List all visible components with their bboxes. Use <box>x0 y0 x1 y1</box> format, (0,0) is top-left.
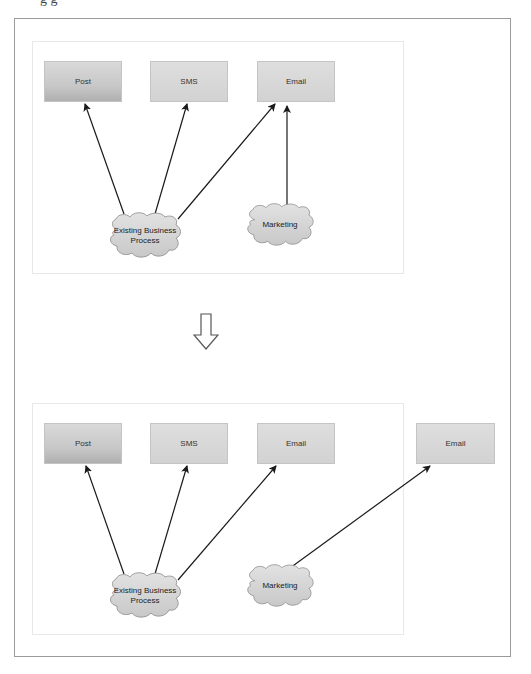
after-source-marketing-label: Marketing <box>262 581 297 591</box>
before-source-ebp-line1: Existing Business <box>114 226 177 236</box>
after-source-marketing: Marketing <box>244 564 316 607</box>
after-channel-email: Email <box>257 423 335 464</box>
before-channel-sms-label: SMS <box>180 77 197 86</box>
before-channel-post: Post <box>44 61 122 102</box>
before-channel-email: Email <box>257 61 335 102</box>
after-source-existing-business-process: Existing Business Process <box>108 574 182 618</box>
after-channel-sms: SMS <box>150 423 228 464</box>
before-arrows <box>85 104 287 219</box>
before-channel-sms: SMS <box>150 61 228 102</box>
before-source-marketing: Marketing <box>244 203 316 246</box>
before-source-existing-business-process: Existing Business Process <box>108 214 182 258</box>
hollow-down-arrow-icon <box>193 313 219 351</box>
before-channel-email-label: Email <box>286 77 306 86</box>
before-source-marketing-label: Marketing <box>262 220 297 230</box>
after-source-ebp-line1: Existing Business <box>114 586 177 596</box>
after-arrows <box>86 466 430 580</box>
after-external-email-label: Email <box>445 439 465 448</box>
before-channel-post-label: Post <box>75 77 91 86</box>
after-source-ebp-line2: Process <box>131 596 160 606</box>
after-channel-sms-label: SMS <box>180 439 197 448</box>
after-channel-post: Post <box>44 423 122 464</box>
after-channel-post-label: Post <box>75 439 91 448</box>
after-channel-email-label: Email <box>286 439 306 448</box>
after-external-channel-email: Email <box>416 423 495 464</box>
before-source-ebp-line2: Process <box>131 236 160 246</box>
